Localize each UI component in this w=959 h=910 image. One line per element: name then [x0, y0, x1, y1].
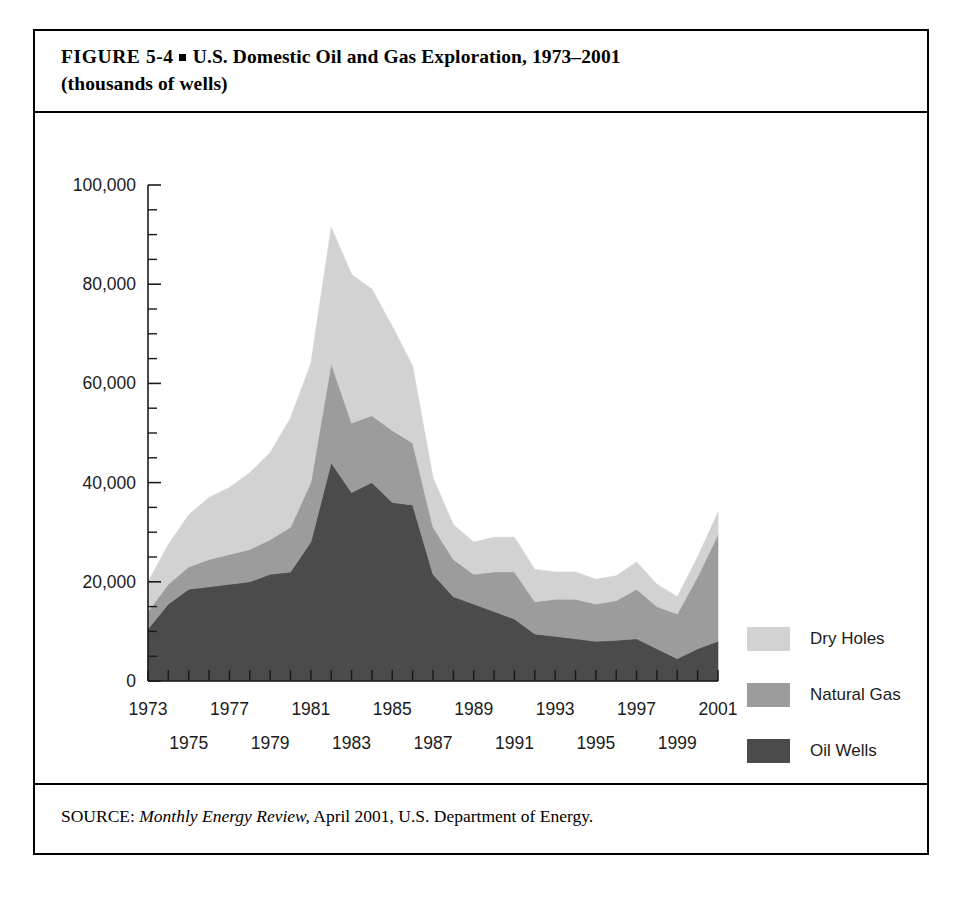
figure-frame: FIGURE 5-4U.S. Domestic Oil and Gas Expl…	[33, 29, 929, 855]
source-line: SOURCE: Monthly Energy Review, April 200…	[61, 806, 927, 827]
legend-label-natural-gas: Natural Gas	[810, 685, 901, 705]
x-axis-tick-label: 1975	[169, 733, 208, 753]
x-axis-tick-label: 1977	[210, 699, 249, 719]
x-axis-tick-label: 1987	[414, 733, 453, 753]
x-axis-tick-label: 1983	[332, 733, 371, 753]
chart-areas-group	[148, 227, 718, 681]
legend-item-dry-holes[interactable]: Dry Holes	[747, 611, 922, 667]
figure-title-text: U.S. Domestic Oil and Gas Exploration, 1…	[193, 46, 621, 67]
y-axis-label-group: 100,00080,00060,00040,00020,0000	[73, 175, 137, 691]
x-axis-tick-label: 1979	[251, 733, 290, 753]
y-axis-tick-label: 20,000	[82, 572, 136, 592]
figure-title-line-1: FIGURE 5-4U.S. Domestic Oil and Gas Expl…	[61, 43, 901, 70]
plot-area: 100,00080,00060,00040,00020,0000 1973197…	[35, 113, 927, 785]
legend-label-dry-holes: Dry Holes	[810, 629, 885, 649]
y-axis-tick-label: 40,000	[82, 473, 136, 493]
square-bullet-icon	[179, 54, 186, 61]
y-axis-tick-label: 100,000	[73, 175, 137, 195]
source-rest: April 2001, U.S. Department of Energy.	[313, 806, 593, 826]
x-axis-tick-label: 1995	[576, 733, 615, 753]
x-axis-tick-label: 1997	[617, 699, 656, 719]
source-publication: Monthly Energy Review,	[139, 806, 310, 826]
x-axis-tick-label: 1989	[454, 699, 493, 719]
x-axis-tick-label: 1999	[658, 733, 697, 753]
x-axis-tick-label: 1991	[495, 733, 534, 753]
oil-wells-swatch-icon	[747, 739, 790, 763]
x-axis-tick-label: 1985	[373, 699, 412, 719]
y-axis-tick-label: 80,000	[82, 274, 136, 294]
x-axis-tick-label: 1973	[129, 699, 168, 719]
dry-holes-swatch-icon	[747, 627, 790, 651]
legend-label-oil-wells: Oil Wells	[810, 741, 877, 761]
x-axis-tick-label: 2001	[699, 699, 738, 719]
chart-legend: Dry Holes Natural Gas Oil Wells	[747, 611, 922, 779]
x-axis-tick-label: 1981	[291, 699, 330, 719]
y-axis-tick-label: 60,000	[82, 373, 136, 393]
x-axis-label-group: 1973197719811985198919931997200119751979…	[129, 699, 738, 753]
legend-item-oil-wells[interactable]: Oil Wells	[747, 723, 922, 779]
x-axis-tick-label: 1993	[536, 699, 575, 719]
figure-title-block: FIGURE 5-4U.S. Domestic Oil and Gas Expl…	[35, 31, 927, 113]
legend-item-natural-gas[interactable]: Natural Gas	[747, 667, 922, 723]
natural-gas-swatch-icon	[747, 683, 790, 707]
y-axis-tick-label: 0	[126, 671, 136, 691]
source-prefix: SOURCE:	[61, 806, 135, 826]
figure-title-line-2: (thousands of wells)	[61, 70, 901, 97]
figure-source-block: SOURCE: Monthly Energy Review, April 200…	[35, 783, 927, 853]
figure-number: FIGURE 5-4	[61, 46, 174, 67]
